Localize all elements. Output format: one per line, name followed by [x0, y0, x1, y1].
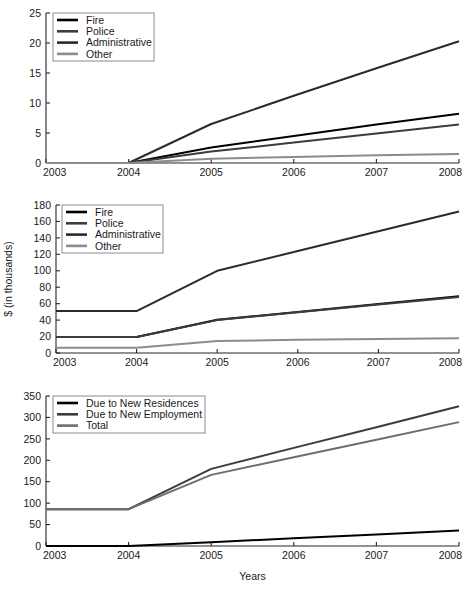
- y-tick-label: 20: [39, 330, 51, 342]
- y-tick-label: 300: [23, 411, 41, 423]
- chart-legend: FirePoliceAdministrativeOther: [53, 13, 154, 61]
- x-tick-label: 2003: [53, 356, 77, 368]
- y-tick-label: 100: [23, 497, 41, 509]
- x-tick-label: 2004: [117, 166, 141, 178]
- y-tick-label: 120: [33, 248, 51, 260]
- y-tick-label: 5: [35, 127, 41, 139]
- chart-panel-1: 0510152025200320042005200620072008FirePo…: [0, 0, 467, 195]
- y-tick-label: 20: [29, 37, 41, 49]
- x-tick-label: 2006: [282, 166, 306, 178]
- figure-three-stacked-line-charts: 0510152025200320042005200620072008FirePo…: [0, 0, 467, 591]
- y-tick-label: 0: [35, 157, 41, 169]
- x-tick-label: 2006: [282, 549, 306, 561]
- chart-panel-3: 0501001502002503003502003200420052006200…: [0, 382, 467, 591]
- x-tick-label: 2004: [117, 549, 141, 561]
- series-line-police: [56, 297, 459, 337]
- y-tick-label: 0: [45, 347, 51, 359]
- legend-label: Fire: [86, 14, 104, 26]
- legend-label: Police: [86, 25, 115, 37]
- legend-label: Total: [86, 419, 108, 431]
- y-tick-label: 40: [39, 314, 51, 326]
- chart-2-canvas: 0204060801001201401601802003200420052006…: [0, 190, 467, 385]
- y-tick-label: 15: [29, 67, 41, 79]
- chart-legend: FirePoliceAdministrativeOther: [62, 205, 163, 253]
- chart-3-canvas: 0501001502002503003502003200420052006200…: [0, 382, 467, 591]
- x-tick-label: 2003: [43, 549, 67, 561]
- y-tick-label: 60: [39, 297, 51, 309]
- y-axis-title: $ (in thousands): [2, 241, 14, 316]
- y-tick-label: 180: [33, 199, 51, 211]
- x-tick-label: 2007: [365, 166, 389, 178]
- x-tick-label: 2005: [206, 356, 230, 368]
- x-tick-label: 2008: [439, 356, 463, 368]
- x-tick-label: 2007: [367, 356, 391, 368]
- x-tick-label: 2005: [200, 166, 224, 178]
- series-line-other: [56, 338, 459, 347]
- legend-label: Other: [86, 48, 113, 60]
- y-tick-label: 200: [23, 454, 41, 466]
- x-tick-label: 2005: [200, 549, 224, 561]
- x-tick-label: 2007: [365, 549, 389, 561]
- series-line-due-to-new-residences: [46, 531, 459, 546]
- y-tick-label: 150: [23, 475, 41, 487]
- x-axis-title: Years: [239, 570, 265, 582]
- y-tick-label: 10: [29, 97, 41, 109]
- y-tick-label: 0: [35, 540, 41, 552]
- y-tick-label: 250: [23, 433, 41, 445]
- legend-label: Due to New Employment: [86, 408, 202, 420]
- x-tick-label: 2008: [439, 549, 463, 561]
- legend-label: Administrative: [86, 36, 152, 48]
- y-tick-label: 80: [39, 281, 51, 293]
- y-tick-label: 25: [29, 7, 41, 19]
- chart-1-canvas: 0510152025200320042005200620072008FirePo…: [0, 0, 467, 195]
- legend-label: Fire: [95, 206, 113, 218]
- chart-panel-2: 0204060801001201401601802003200420052006…: [0, 190, 467, 385]
- y-tick-label: 350: [23, 390, 41, 402]
- legend-label: Administrative: [95, 228, 161, 240]
- x-tick-label: 2006: [286, 356, 310, 368]
- legend-label: Other: [95, 240, 122, 252]
- legend-label: Due to New Residences: [86, 397, 199, 409]
- series-line-other: [46, 154, 459, 163]
- series-line-total: [46, 422, 459, 509]
- y-tick-label: 140: [33, 232, 51, 244]
- legend-label: Police: [95, 217, 124, 229]
- x-tick-label: 2003: [43, 166, 67, 178]
- y-tick-label: 50: [29, 518, 41, 530]
- y-tick-label: 160: [33, 215, 51, 227]
- x-tick-label: 2008: [439, 166, 463, 178]
- x-tick-label: 2004: [125, 356, 149, 368]
- y-tick-label: 100: [33, 264, 51, 276]
- chart-legend: Due to New ResidencesDue to New Employme…: [53, 396, 205, 433]
